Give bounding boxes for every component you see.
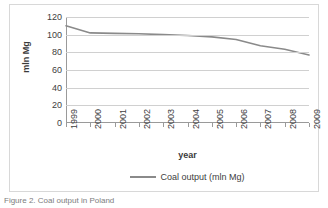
x-tick-mark	[309, 123, 310, 127]
x-axis-title: year	[66, 150, 309, 160]
legend-label: Coal output (mln Mg)	[160, 172, 244, 182]
coal-output-line-chart: 020406080100120 mln Mg 19992000200120022…	[0, 0, 328, 208]
x-tick-mark	[188, 123, 189, 127]
y-tick-label: 0	[57, 119, 62, 128]
x-tick-label: 2000	[94, 109, 103, 129]
x-tick-mark	[115, 123, 116, 127]
x-tick-label: 2004	[192, 109, 201, 129]
y-axis-tick-labels: 020406080100120	[30, 0, 62, 188]
x-tick-label: 2006	[240, 109, 249, 129]
y-tick-label: 80	[52, 48, 62, 57]
x-tick-mark	[139, 123, 140, 127]
y-tick-label: 40	[52, 84, 62, 93]
gridline	[66, 52, 309, 53]
y-axis-title: mln Mg	[21, 27, 31, 87]
y-tick-label: 120	[47, 13, 62, 22]
gridline	[66, 105, 309, 106]
gridline	[66, 35, 309, 36]
x-tick-label: 1999	[70, 109, 79, 129]
x-tick-mark	[212, 123, 213, 127]
x-tick-label: 2008	[289, 109, 298, 129]
x-tick-label: 2001	[119, 109, 128, 129]
y-tick-label: 60	[52, 66, 62, 75]
x-tick-label: 2003	[167, 109, 176, 129]
x-tick-mark	[66, 123, 67, 127]
legend-line-swatch	[130, 176, 156, 178]
x-tick-mark	[236, 123, 237, 127]
y-tick-label: 100	[47, 31, 62, 40]
y-tick-label: 20	[52, 101, 62, 110]
chart-legend: Coal output (mln Mg)	[66, 172, 309, 182]
gridline	[66, 88, 309, 89]
x-tick-label: 2005	[216, 109, 225, 129]
figure-caption: Figure 2. Coal output in Poland	[4, 196, 324, 205]
x-tick-label: 2009	[313, 109, 322, 129]
x-tick-mark	[285, 123, 286, 127]
gridline	[66, 17, 309, 18]
x-tick-mark	[163, 123, 164, 127]
gridline	[66, 70, 309, 71]
x-tick-label: 2002	[143, 109, 152, 129]
x-tick-label: 2007	[264, 109, 273, 129]
x-tick-mark	[90, 123, 91, 127]
x-tick-mark	[260, 123, 261, 127]
plot-area	[66, 17, 309, 123]
